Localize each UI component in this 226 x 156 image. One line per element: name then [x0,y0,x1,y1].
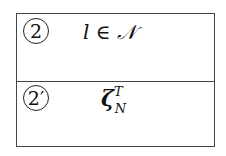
table-row: 2′ ζTN [17,81,214,146]
math-expression: ζTN [101,85,134,114]
math-subscript: N [115,101,126,116]
math-symbol: ζ [101,85,114,111]
table-row: 2 l ∈ 𝒩 [17,14,214,82]
circled-number-label: 2 [23,18,49,44]
circled-number-label: 2′ [23,85,49,111]
math-superscript: T [114,84,123,99]
equation-table: 2 l ∈ 𝒩 2′ ζTN [16,13,215,147]
math-expression: l ∈ 𝒩 [83,20,136,44]
